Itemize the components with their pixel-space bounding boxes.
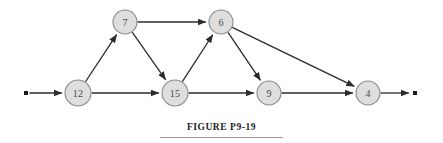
edge-n15-to-n6 <box>182 35 212 82</box>
node-label-7: 7 <box>122 17 127 28</box>
figure-caption-text: FIGURE P9-19 <box>185 121 258 133</box>
figure-caption-rule <box>160 137 283 138</box>
terminal-marker-t_end <box>413 91 417 95</box>
node-label-12: 12 <box>73 88 83 99</box>
figure-container: 12715694 FIGURE P9-19 <box>0 0 443 143</box>
graph-node-15[interactable]: 15 <box>162 80 188 106</box>
nodes-layer: 12715694 <box>65 10 380 106</box>
edge-n12-to-n7 <box>85 35 116 82</box>
terminal-marker-t_start <box>24 91 28 95</box>
graph-node-6[interactable]: 6 <box>209 10 233 34</box>
graph-node-4[interactable]: 4 <box>356 81 380 105</box>
node-label-6: 6 <box>218 17 223 28</box>
figure-caption: FIGURE P9-19 <box>0 116 443 138</box>
graph-node-12[interactable]: 12 <box>65 80 91 106</box>
node-label-15: 15 <box>170 88 180 99</box>
edge-n6-to-n4 <box>232 27 354 86</box>
edge-n6-to-n9 <box>228 32 260 80</box>
graph-node-9[interactable]: 9 <box>257 81 281 105</box>
node-label-9: 9 <box>266 88 271 99</box>
edge-n7-to-n15 <box>132 32 165 80</box>
graph-node-7[interactable]: 7 <box>113 10 137 34</box>
node-label-4: 4 <box>365 88 370 99</box>
